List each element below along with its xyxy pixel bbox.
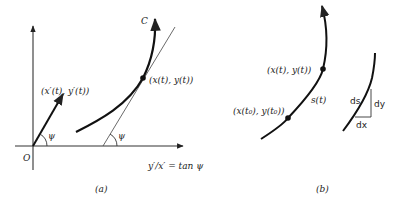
panel-b: (x(t), y(t)) (x(t₀), y(t₀)) s(t) ds dy d… — [233, 6, 386, 194]
point-t-label: (x(t), y(t)) — [267, 65, 312, 75]
point-t0-label: (x(t₀), y(t₀)) — [233, 106, 285, 116]
point-t0 — [285, 115, 291, 121]
curve-label: C — [141, 16, 148, 26]
caption-b: (b) — [316, 184, 329, 194]
velocity-label: (x′(t), y′(t)) — [41, 86, 90, 96]
origin-label: O — [23, 153, 31, 163]
dy-label: dy — [374, 99, 386, 109]
caption-a: (a) — [95, 184, 108, 194]
point-label: (x(t), y(t)) — [149, 75, 194, 85]
dx-label: dx — [356, 120, 368, 130]
curve-point — [140, 75, 146, 81]
arc-length-label: s(t) — [311, 95, 327, 105]
tangent-line — [103, 27, 175, 146]
angle-arc-tangent — [110, 134, 117, 146]
slope-label: y′/x′ = tan ψ — [147, 161, 204, 171]
ds-label: ds — [350, 96, 361, 106]
figure-canvas: C (x(t), y(t)) (x′(t), y′(t)) ψ ψ O y′/x… — [0, 0, 397, 202]
angle-arc-vector — [40, 134, 47, 146]
point-t — [320, 66, 326, 72]
panel-a: C (x(t), y(t)) (x′(t), y′(t)) ψ ψ O y′/x… — [15, 16, 204, 194]
angle-label-tangent: ψ — [118, 131, 126, 141]
angle-label-vector: ψ — [48, 131, 56, 141]
